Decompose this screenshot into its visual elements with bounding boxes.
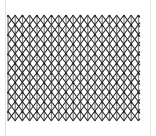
lattice-node bbox=[58, 44, 60, 46]
lattice-node bbox=[36, 15, 38, 17]
lattice-node bbox=[109, 53, 111, 55]
lattice-node bbox=[51, 53, 53, 55]
lattice-node bbox=[94, 73, 96, 75]
lattice-node bbox=[87, 44, 89, 46]
lattice-node bbox=[80, 53, 82, 55]
lattice-node bbox=[58, 25, 60, 27]
lattice-node bbox=[58, 63, 60, 65]
lattice-node bbox=[138, 53, 140, 55]
lattice-node bbox=[109, 111, 111, 113]
lattice-node bbox=[7, 111, 9, 113]
lattice-node bbox=[65, 111, 67, 113]
lattice-node bbox=[138, 92, 140, 94]
lattice-node bbox=[101, 44, 103, 46]
lattice-node bbox=[87, 63, 89, 65]
lattice-node bbox=[130, 101, 132, 103]
lattice-node bbox=[51, 15, 53, 17]
lattice-node bbox=[116, 25, 118, 27]
lattice-node bbox=[22, 111, 24, 113]
lattice-node bbox=[94, 111, 96, 113]
lattice-node bbox=[123, 34, 125, 36]
lattice-node bbox=[138, 34, 140, 36]
lattice-node bbox=[7, 53, 9, 55]
lattice-node bbox=[51, 111, 53, 113]
lattice-node bbox=[138, 15, 140, 17]
lattice-node bbox=[51, 73, 53, 75]
lattice-node bbox=[94, 34, 96, 36]
lattice-node bbox=[138, 73, 140, 75]
lattice-node bbox=[36, 53, 38, 55]
lattice-node bbox=[80, 15, 82, 17]
lattice-node bbox=[22, 15, 24, 17]
lattice-node bbox=[29, 25, 31, 27]
lattice-node bbox=[58, 82, 60, 84]
lattice-node bbox=[138, 111, 140, 113]
lattice-node bbox=[22, 73, 24, 75]
lattice-node bbox=[43, 101, 45, 103]
lattice-node bbox=[116, 63, 118, 65]
lattice-node bbox=[14, 101, 16, 103]
lattice-node bbox=[14, 44, 16, 46]
lattice-canvas bbox=[0, 0, 156, 136]
lattice-node bbox=[116, 82, 118, 84]
lattice-node bbox=[94, 15, 96, 17]
lattice-node bbox=[109, 34, 111, 36]
lattice-node bbox=[94, 92, 96, 94]
lattice-node bbox=[36, 34, 38, 36]
lattice-node bbox=[43, 63, 45, 65]
lattice-node bbox=[43, 82, 45, 84]
lattice-node bbox=[101, 25, 103, 27]
lattice-node bbox=[65, 53, 67, 55]
lattice-node bbox=[116, 101, 118, 103]
lattice-node bbox=[72, 25, 74, 27]
screenshot-root: Triangular Lattice Pattern bbox=[0, 0, 156, 136]
lattice-node bbox=[29, 44, 31, 46]
lattice-node bbox=[72, 44, 74, 46]
lattice-node bbox=[36, 73, 38, 75]
lattice-node bbox=[7, 34, 9, 36]
lattice-node bbox=[130, 25, 132, 27]
lattice-node bbox=[123, 111, 125, 113]
lattice-node bbox=[72, 82, 74, 84]
lattice-node bbox=[43, 44, 45, 46]
lattice-node bbox=[123, 73, 125, 75]
lattice-node bbox=[130, 44, 132, 46]
lattice-node bbox=[130, 82, 132, 84]
lattice-node bbox=[123, 53, 125, 55]
lattice-node bbox=[130, 63, 132, 65]
lattice-node bbox=[80, 73, 82, 75]
lattice-node bbox=[14, 82, 16, 84]
lattice-node bbox=[101, 82, 103, 84]
lattice-node bbox=[29, 82, 31, 84]
lattice-node bbox=[123, 92, 125, 94]
lattice-node bbox=[72, 101, 74, 103]
lattice-figure bbox=[0, 0, 156, 136]
lattice-node bbox=[58, 101, 60, 103]
lattice-node bbox=[65, 15, 67, 17]
lattice-node bbox=[43, 25, 45, 27]
lattice-node bbox=[87, 101, 89, 103]
lattice-node bbox=[80, 34, 82, 36]
lattice-node bbox=[116, 44, 118, 46]
lattice-node bbox=[36, 111, 38, 113]
lattice-node bbox=[80, 111, 82, 113]
lattice-node bbox=[22, 53, 24, 55]
lattice-node bbox=[80, 92, 82, 94]
lattice-node bbox=[72, 63, 74, 65]
lattice-node bbox=[109, 73, 111, 75]
lattice-node bbox=[29, 63, 31, 65]
lattice-node bbox=[65, 92, 67, 94]
lattice-node bbox=[51, 92, 53, 94]
lattice-node bbox=[36, 92, 38, 94]
lattice-node bbox=[65, 34, 67, 36]
lattice-node bbox=[7, 92, 9, 94]
lattice-node bbox=[14, 25, 16, 27]
lattice-node bbox=[65, 73, 67, 75]
lattice-node bbox=[94, 53, 96, 55]
lattice-node bbox=[109, 92, 111, 94]
lattice-node bbox=[22, 34, 24, 36]
lattice-node bbox=[87, 82, 89, 84]
lattice-node bbox=[123, 15, 125, 17]
lattice-node bbox=[7, 15, 9, 17]
lattice-node bbox=[14, 63, 16, 65]
